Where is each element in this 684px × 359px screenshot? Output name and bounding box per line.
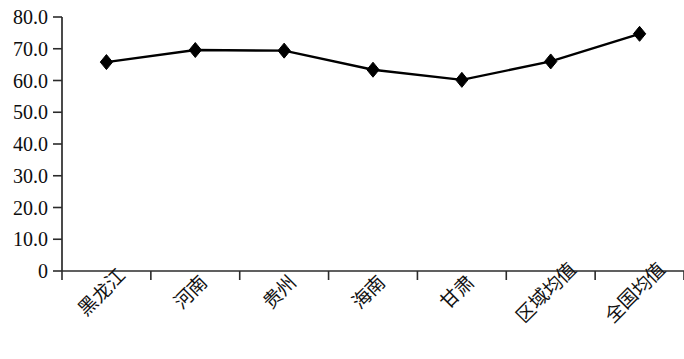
line-chart: 010.020.030.040.050.060.070.080.0 黑龙江河南贵… bbox=[0, 0, 684, 359]
y-axis-tick-label: 0 bbox=[38, 260, 48, 282]
y-axis-tick-label: 50.0 bbox=[13, 101, 48, 123]
y-axis-tick-label: 10.0 bbox=[13, 228, 48, 250]
y-axis-tick-label: 70.0 bbox=[13, 38, 48, 60]
y-axis-tick-label: 40.0 bbox=[13, 133, 48, 155]
y-axis-tick-label: 30.0 bbox=[13, 165, 48, 187]
y-axis-tick-label: 80.0 bbox=[13, 6, 48, 28]
y-axis-tick-label: 60.0 bbox=[13, 70, 48, 92]
y-axis-tick-label: 20.0 bbox=[13, 197, 48, 219]
chart-canvas: 010.020.030.040.050.060.070.080.0 黑龙江河南贵… bbox=[0, 0, 684, 359]
